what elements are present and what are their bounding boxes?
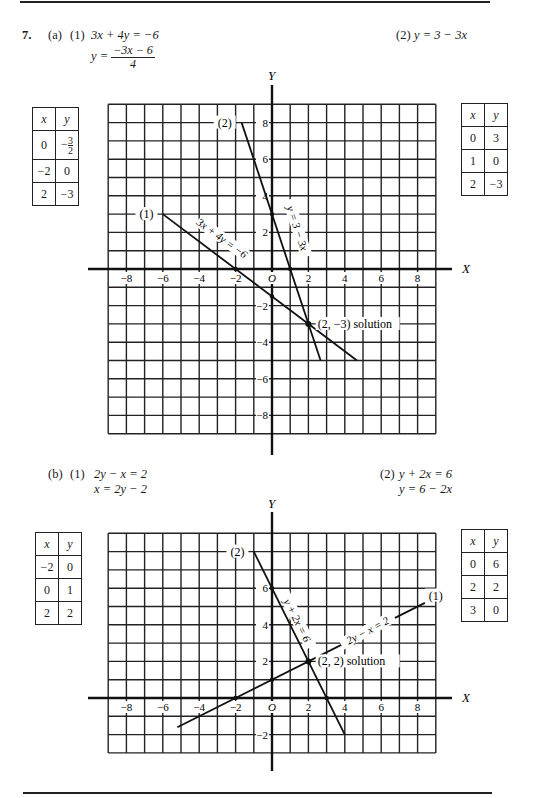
y-tick-label: −4	[256, 336, 268, 348]
y-tick-label: 2	[263, 226, 269, 238]
x-tick-label: −6	[157, 272, 169, 284]
line-equation-annotation: y = 3 − 3x	[284, 203, 310, 252]
x-axis-label: X	[461, 261, 471, 276]
x-tick-label: O	[268, 272, 276, 284]
x-tick-label: 6	[378, 701, 384, 713]
x-tick-label: −4	[193, 701, 205, 713]
y-tick-label: 8	[263, 117, 269, 129]
y-tick-label: 4	[263, 619, 269, 631]
plotted-point	[270, 294, 274, 298]
solution-point	[305, 658, 311, 664]
x-tick-label: −4	[193, 272, 205, 284]
graph-a: YX−8−6−4−2O24688642−2−4−6−8(1)(2)3x + 4y…	[88, 68, 471, 455]
x-axis-label: X	[461, 690, 471, 705]
x-tick-label: 2	[306, 701, 312, 713]
y-tick-label: −2	[256, 300, 268, 312]
y-tick-label: −2	[256, 729, 268, 741]
plotted-point	[324, 696, 328, 700]
plotted-point	[233, 267, 237, 271]
line-equation-annotation: 3x + 4y = −6	[194, 215, 250, 261]
x-tick-label: 8	[415, 701, 421, 713]
x-tick-label: −2	[230, 272, 242, 284]
series-number-label: (1)	[429, 589, 443, 603]
x-tick-label: −8	[121, 272, 133, 284]
y-tick-label: 6	[263, 582, 269, 594]
series-number-label: (2)	[230, 545, 244, 559]
plotted-point	[288, 267, 292, 271]
solution-label: (2, −3) solution	[318, 317, 392, 331]
plotted-point	[270, 586, 274, 590]
series-number-label: (1)	[139, 207, 153, 221]
solution-point	[305, 321, 311, 327]
x-tick-label: −6	[157, 701, 169, 713]
y-tick-label: −8	[256, 409, 268, 421]
line-equation-annotation: 2y − x = 2	[344, 614, 391, 647]
x-tick-label: −2	[230, 701, 242, 713]
x-tick-label: −8	[121, 701, 133, 713]
plotted-point	[270, 212, 274, 216]
graphs-canvas: YX−8−6−4−2O24688642−2−4−6−8(1)(2)3x + 4y…	[0, 0, 534, 798]
series-number-label: (2)	[218, 116, 232, 130]
x-tick-label: O	[268, 701, 276, 713]
y-tick-label: 2	[263, 655, 269, 667]
x-tick-label: 6	[378, 272, 384, 284]
plotted-point	[270, 678, 274, 682]
y-axis-label: Y	[268, 68, 277, 83]
graph-b: YX−8−6−4−2O2468642−2(1)(2)2y − x = 2y + …	[88, 496, 471, 771]
x-tick-label: 4	[342, 272, 348, 284]
plotted-point	[233, 696, 237, 700]
y-tick-label: 6	[263, 153, 269, 165]
x-tick-label: 8	[415, 272, 421, 284]
solution-label: (2, 2) solution	[318, 654, 386, 668]
x-tick-label: 2	[306, 272, 312, 284]
y-axis-label: Y	[268, 496, 277, 511]
y-tick-label: −6	[256, 373, 268, 385]
x-tick-label: 4	[342, 701, 348, 713]
